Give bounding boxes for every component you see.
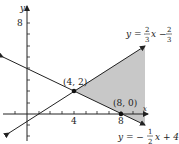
- linear-programming-graph: y x 8 4 8 (4, 2) (8, 0) y = 2 3 x − 2 3 …: [0, 0, 179, 144]
- y-tick-label-8: 8: [17, 18, 23, 28]
- point-label-8-0: (8, 0): [113, 98, 137, 108]
- x-tick-label-8: 8: [118, 116, 124, 126]
- point-4-2: [72, 89, 77, 94]
- x-axis-label: x: [143, 105, 147, 113]
- svg-text:2: 2: [145, 26, 149, 34]
- y-axis-label: y: [19, 3, 26, 13]
- svg-text:x + 4: x + 4: [155, 132, 179, 142]
- svg-text:2: 2: [167, 26, 171, 34]
- svg-text:1: 1: [148, 128, 152, 136]
- svg-text:x −: x −: [151, 29, 166, 39]
- svg-text:3: 3: [145, 36, 149, 44]
- equation-lower: y = − 1 2 x + 4: [117, 128, 179, 144]
- point-label-4-2: (4, 2): [63, 77, 87, 87]
- x-tick-label-4: 4: [71, 116, 77, 126]
- svg-text:y = −: y = −: [117, 132, 144, 142]
- svg-text:y =: y =: [125, 29, 142, 39]
- equation-upper: y = 2 3 x − 2 3: [125, 26, 172, 44]
- svg-text:3: 3: [167, 36, 171, 44]
- svg-text:2: 2: [148, 138, 152, 144]
